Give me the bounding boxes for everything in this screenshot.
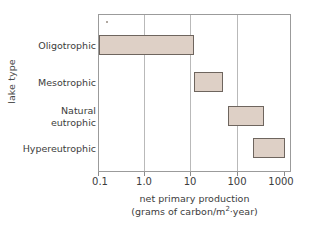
category-label-natural-eutrophic-line1: Natural	[14, 105, 96, 116]
tick-label-100: 100	[227, 176, 246, 187]
stray-speck	[106, 21, 108, 23]
bar-mesotrophic	[194, 72, 223, 92]
category-label-oligotrophic: Oligotrophic	[14, 40, 96, 51]
lake-productivity-chart: lake type Oligotrophic Mesotrophic Natur…	[0, 0, 311, 234]
x-axis-title: net primary production (grams of carbon/…	[98, 192, 291, 218]
category-label-hypereutrophic: Hypereutrophic	[14, 143, 96, 154]
x-axis-title-line1: net primary production	[140, 193, 250, 204]
tick-label-1000: 1000	[268, 176, 293, 187]
bar-hypereutrophic	[253, 138, 285, 158]
category-label-mesotrophic: Mesotrophic	[14, 77, 96, 88]
category-label-column: Oligotrophic Mesotrophic Natural eutroph…	[14, 14, 96, 172]
x-axis-units-suffix: ·year)	[230, 206, 258, 217]
x-axis-title-line2: (grams of carbon/m2·year)	[98, 205, 291, 218]
bar-natural-eutrophic	[228, 106, 264, 126]
tick-label-1.0: 1.0	[136, 176, 152, 187]
x-axis-units-prefix: (grams of carbon/m	[131, 206, 225, 217]
tick-label-0.1: 0.1	[92, 176, 108, 187]
plot-area	[98, 14, 291, 172]
gridline-100	[237, 15, 238, 171]
tick-label-10: 10	[184, 176, 197, 187]
bar-oligotrophic	[99, 35, 194, 55]
category-label-natural-eutrophic-line2: eutrophic	[14, 117, 96, 128]
